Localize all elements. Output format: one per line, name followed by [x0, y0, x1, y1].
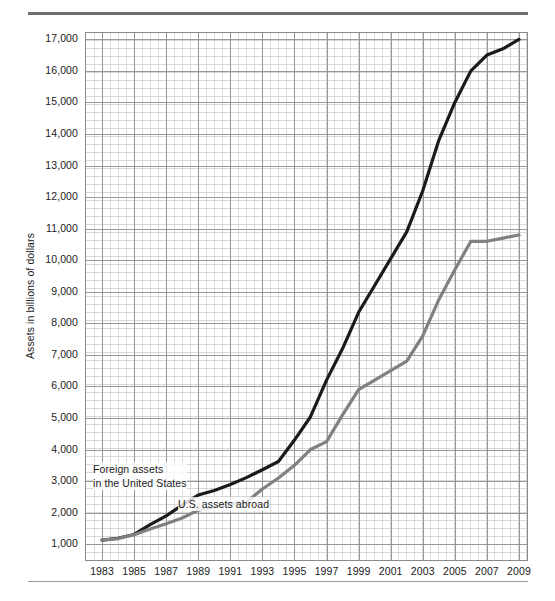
series-label-foreign-assets: Foreign assets in the United States: [93, 462, 187, 490]
chart-figure: Assets in billions of dollars 1,0002,000…: [0, 0, 555, 601]
series-label-us-assets-abroad: U.S. assets abroad: [178, 497, 269, 511]
plot-area: [0, 0, 555, 601]
